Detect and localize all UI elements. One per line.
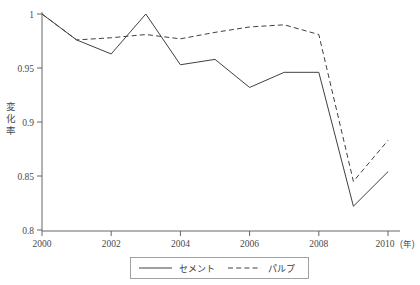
y-axis-title: 変 化 率 [6, 101, 16, 136]
x-tick-label-2006: 2006 [240, 239, 259, 249]
x-tick-label-2008: 2008 [309, 239, 328, 249]
legend-label-pulp: パルプ [268, 264, 295, 274]
y-axis-title-char-0: 変 [6, 101, 16, 112]
x-tick-label-2004: 2004 [171, 239, 190, 249]
y-tick-label-095: 0.95 [17, 64, 34, 74]
y-axis-ticks [37, 14, 42, 230]
chart-legend: セメント パルプ [131, 258, 309, 279]
line-chart: 1 0.95 0.9 0.85 0.8 変 化 率 2000 2002 2004… [0, 0, 420, 285]
y-tick-label-08: 0.8 [22, 226, 34, 236]
y-tick-label-1: 1 [29, 10, 34, 20]
y-axis-title-char-2: 率 [6, 125, 16, 136]
series-line-cement [42, 14, 388, 206]
series-line-pulp [42, 14, 388, 181]
x-axis-unit-label: (年) [400, 239, 415, 249]
y-axis-title-char-1: 化 [6, 113, 16, 124]
x-tick-label-2010: 2010 [376, 239, 395, 249]
chart-container: 1 0.95 0.9 0.85 0.8 変 化 率 2000 2002 2004… [0, 0, 420, 285]
y-tick-label-09: 0.9 [22, 118, 34, 128]
y-tick-label-085: 0.85 [17, 172, 34, 182]
x-tick-label-2000: 2000 [33, 239, 52, 249]
x-tick-label-2002: 2002 [102, 239, 121, 249]
legend-label-cement: セメント [179, 264, 215, 274]
x-axis-ticks [42, 231, 388, 236]
